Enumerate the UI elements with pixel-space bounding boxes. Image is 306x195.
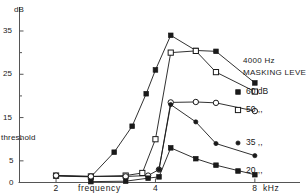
data-point-0-9 <box>253 81 258 86</box>
data-point-1-3 <box>140 170 145 175</box>
data-point-3-1 <box>169 102 173 106</box>
legend-label-3: 20 ,, <box>246 166 263 175</box>
legend-entry-2 <box>236 141 240 145</box>
y-tick-label-25: 25 <box>3 70 12 78</box>
legend-leader-lines <box>235 90 240 174</box>
data-point-3-4 <box>253 154 257 158</box>
series-line-3 <box>159 105 255 170</box>
data-point-0-2 <box>112 150 117 155</box>
legend-marker-1 <box>235 107 240 112</box>
legend-label-2: 35 ,, <box>246 138 263 147</box>
data-point-4-1 <box>123 179 128 184</box>
data-point-0-6 <box>168 33 173 38</box>
legend-entry-3 <box>236 169 241 174</box>
y-tick-label-15: 15 <box>3 114 12 122</box>
data-point-1-7 <box>213 70 218 75</box>
data-point-1-6 <box>193 48 198 53</box>
series-layer <box>53 33 257 184</box>
data-point-4-6 <box>214 163 219 168</box>
data-point-4-3 <box>157 175 162 180</box>
x-tick-label-2: 2 <box>54 184 59 193</box>
data-point-4-2 <box>146 176 151 181</box>
y-tick-label-0: 0 <box>9 179 13 187</box>
data-point-4-5 <box>194 156 199 161</box>
legend-title-line2: MASKING LEVEL <box>243 69 306 77</box>
y-tick-label-35: 35 <box>3 27 12 35</box>
legend-entry-1 <box>235 107 240 112</box>
data-point-2-6 <box>193 99 198 104</box>
data-point-0-4 <box>144 91 149 96</box>
data-point-1-5 <box>168 50 173 55</box>
data-point-2-2 <box>123 174 128 179</box>
legend-marker-0 <box>236 90 241 95</box>
series-3 <box>157 102 257 171</box>
legend-label-0: 60 dB <box>246 87 268 96</box>
y-axis-threshold-label: threshold <box>1 134 36 142</box>
data-point-3-2 <box>194 120 198 124</box>
data-point-2-7 <box>213 100 218 105</box>
chart-figure: dB threshold frequency kHz 4000 Hz MASKI… <box>0 0 306 195</box>
legend-marker-3 <box>236 169 241 174</box>
data-point-0-5 <box>153 68 158 73</box>
x-axis-name-label: frequency <box>78 184 121 193</box>
legend-label-1: 50 ,, <box>246 105 263 114</box>
x-tick-label-4: 4 <box>153 184 158 193</box>
y-tick-label-5: 5 <box>9 157 13 165</box>
series-0 <box>54 33 257 179</box>
data-point-0-3 <box>130 124 135 129</box>
data-point-2-0 <box>53 173 58 178</box>
legend-entry-0 <box>236 90 241 95</box>
data-point-3-3 <box>214 141 218 145</box>
data-point-3-0 <box>157 167 161 171</box>
data-point-0-8 <box>214 49 219 54</box>
data-point-2-1 <box>88 174 93 179</box>
data-point-1-4 <box>153 137 158 142</box>
x-axis-unit-label: kHz <box>263 184 279 193</box>
y-axis-unit-label: dB <box>14 6 24 14</box>
legend-title-line1: 4000 Hz <box>243 57 275 65</box>
data-point-4-4 <box>168 146 173 151</box>
series-line-0 <box>56 35 255 177</box>
legend-marker-2 <box>236 141 240 145</box>
x-tick-label-8: 8 <box>252 184 257 193</box>
